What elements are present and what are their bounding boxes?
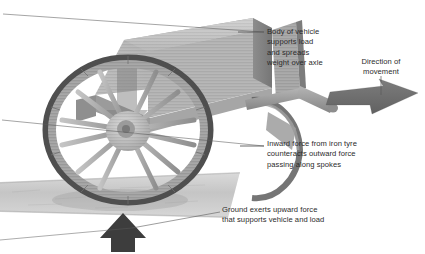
inward-force-label: Inward force from iron tyre counteracts …: [267, 139, 417, 170]
direction-of-movement-label: Direction of movement: [344, 57, 418, 78]
cart-wheel: [46, 56, 210, 204]
direction-of-movement-arrow: [326, 79, 418, 114]
ground-force-label: Ground exerts upward force that supports…: [222, 205, 382, 226]
ground-upward-force-arrow: [100, 213, 146, 252]
diagram-canvas: Body of vehicle supports load and spread…: [0, 0, 425, 254]
